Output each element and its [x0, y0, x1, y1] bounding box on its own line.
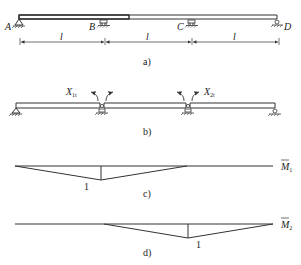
- roller-support-b-icon: [97, 20, 110, 28]
- continuous-beam-diagram: A B C D: [0, 0, 301, 265]
- figure-d: 1 M2 d): [15, 218, 292, 259]
- figure-a: A B C D: [4, 15, 292, 68]
- caption-d: d): [143, 247, 151, 259]
- caption-a: a): [143, 56, 151, 68]
- span-label-ab: l: [60, 31, 63, 42]
- roller-support-right-icon: [268, 109, 281, 116]
- roller-support-d-icon: [271, 20, 283, 27]
- label-b: B: [89, 21, 95, 32]
- label-c: C: [177, 21, 184, 32]
- label-a: A: [4, 21, 12, 32]
- caption-b: b): [143, 126, 151, 138]
- beam-ab: [19, 15, 129, 19]
- unknown-x1-label: X1t: [65, 86, 77, 98]
- moment-arrows-x1-icon: [91, 92, 113, 101]
- unknown-x2-label: X2t: [203, 86, 215, 98]
- m2-peak-value: 1: [196, 239, 201, 250]
- m1-peak-value: 1: [84, 181, 89, 192]
- hinge-support-b-icon: [95, 104, 108, 115]
- m2-label: M2: [280, 218, 292, 231]
- svg-text:M2: M2: [280, 219, 292, 231]
- span-label-bc: l: [146, 31, 149, 42]
- roller-support-c-icon: [185, 20, 198, 28]
- svg-text:M1: M1: [280, 161, 292, 173]
- label-d: D: [283, 21, 292, 32]
- figure-b: X1t X2t b): [9, 86, 281, 138]
- caption-c: c): [143, 188, 151, 200]
- hinge-support-c-icon: [181, 104, 194, 115]
- moment-arrows-x2-icon: [177, 92, 199, 101]
- m1-label: M1: [280, 160, 292, 173]
- span-label-cd: l: [233, 31, 236, 42]
- pin-support-left-icon: [9, 108, 22, 116]
- dimension-lines: [20, 38, 279, 45]
- figure-c: 1 M1 c): [15, 160, 292, 200]
- pin-support-a-icon: [12, 19, 25, 28]
